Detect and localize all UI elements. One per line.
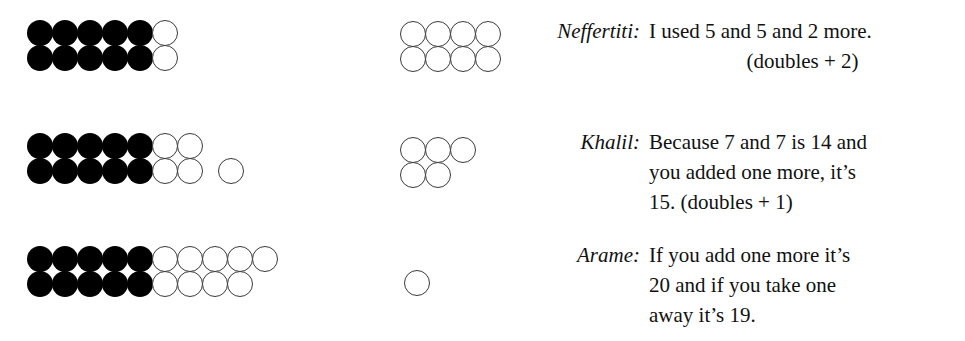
open-dot xyxy=(152,271,178,297)
filled-dot xyxy=(127,45,153,71)
filled-dot xyxy=(102,246,128,272)
speech-line: 20 and if you take one xyxy=(649,270,956,300)
filled-dot xyxy=(77,20,103,46)
open-dot xyxy=(404,270,430,296)
filled-dot xyxy=(77,271,103,297)
open-dot xyxy=(202,246,228,272)
filled-dot xyxy=(77,246,103,272)
open-dot xyxy=(450,46,476,72)
filled-dot xyxy=(52,158,78,184)
speaker-name-khalil: Khalil: xyxy=(580,127,640,217)
filled-dot xyxy=(77,133,103,159)
filled-dot xyxy=(27,20,53,46)
filled-dot xyxy=(52,20,78,46)
speech-line: you added one more, it’s xyxy=(649,157,956,187)
open-dot xyxy=(152,133,178,159)
open-dot xyxy=(475,21,501,47)
speech-line: 15. (doubles + 1) xyxy=(649,187,956,217)
speech-line: If you add one more it’s xyxy=(649,240,956,270)
open-dot xyxy=(152,20,178,46)
open-dot xyxy=(152,45,178,71)
filled-dot xyxy=(52,45,78,71)
open-dot xyxy=(177,158,203,184)
open-dot-detached xyxy=(218,158,244,184)
open-dot xyxy=(425,46,451,72)
open-dot xyxy=(400,162,426,188)
filled-dot xyxy=(102,20,128,46)
open-dot xyxy=(227,271,253,297)
speech-line: Because 7 and 7 is 14 and xyxy=(649,127,956,157)
speech-line: away it’s 19. xyxy=(649,300,956,330)
open-dot xyxy=(450,137,476,163)
open-dot xyxy=(425,21,451,47)
open-dot xyxy=(475,46,501,72)
speech-text-neffertiti: I used 5 and 5 and 2 more. (doubles + 2) xyxy=(649,16,956,76)
open-dot xyxy=(425,162,451,188)
filled-dot xyxy=(52,271,78,297)
filled-dot xyxy=(127,271,153,297)
open-dot xyxy=(177,133,203,159)
speech-line: I used 5 and 5 and 2 more. xyxy=(649,16,956,46)
open-dot xyxy=(400,21,426,47)
open-dot xyxy=(152,246,178,272)
filled-dot xyxy=(77,45,103,71)
filled-dot xyxy=(102,158,128,184)
open-dot xyxy=(252,246,278,272)
filled-dot xyxy=(52,246,78,272)
filled-dot xyxy=(102,133,128,159)
speaker-name-arame: Arame: xyxy=(577,240,640,330)
filled-dot xyxy=(27,133,53,159)
filled-dot xyxy=(27,45,53,71)
open-dot xyxy=(450,21,476,47)
speech-arame: Arame: If you add one more it’s 20 and i… xyxy=(536,240,956,330)
worksheet-page: Neffertiti: I used 5 and 5 and 2 more. (… xyxy=(0,0,965,341)
filled-dot xyxy=(127,20,153,46)
open-dot xyxy=(227,246,253,272)
filled-dot xyxy=(127,158,153,184)
open-dot xyxy=(152,158,178,184)
open-dot xyxy=(425,137,451,163)
filled-dot xyxy=(27,271,53,297)
filled-dot xyxy=(77,158,103,184)
open-dot xyxy=(177,246,203,272)
open-dot xyxy=(400,137,426,163)
speech-text-arame: If you add one more it’s 20 and if you t… xyxy=(649,240,956,330)
open-dot xyxy=(400,46,426,72)
speech-neffertiti: Neffertiti: I used 5 and 5 and 2 more. (… xyxy=(536,16,956,76)
open-dot xyxy=(202,271,228,297)
filled-dot xyxy=(102,45,128,71)
filled-dot xyxy=(127,133,153,159)
filled-dot xyxy=(52,133,78,159)
filled-dot xyxy=(127,246,153,272)
speech-line: (doubles + 2) xyxy=(649,46,956,76)
filled-dot xyxy=(27,158,53,184)
filled-dot xyxy=(27,246,53,272)
speaker-name-neffertiti: Neffertiti: xyxy=(557,16,640,76)
speech-khalil: Khalil: Because 7 and 7 is 14 and you ad… xyxy=(536,127,956,217)
open-dot xyxy=(177,271,203,297)
filled-dot xyxy=(102,271,128,297)
speech-text-khalil: Because 7 and 7 is 14 and you added one … xyxy=(649,127,956,217)
